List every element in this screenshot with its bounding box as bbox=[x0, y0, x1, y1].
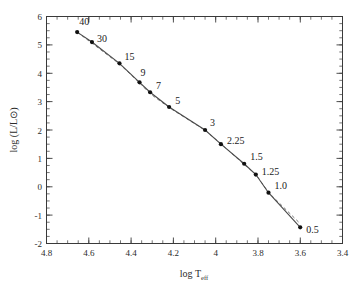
data-point bbox=[242, 162, 246, 166]
y-axis-label: log (L/L⊙) bbox=[8, 108, 20, 153]
data-point bbox=[254, 172, 258, 176]
data-point-label: 0.5 bbox=[306, 224, 319, 235]
x-tick-label: 4 bbox=[213, 248, 218, 258]
zams-solid-curve bbox=[77, 32, 300, 227]
x-axis-label-subscript: eff bbox=[201, 274, 209, 281]
y-tick-label: 2 bbox=[38, 126, 43, 136]
data-point-label: 1.0 bbox=[275, 180, 288, 191]
data-point bbox=[90, 40, 94, 44]
x-tick-label: 4.6 bbox=[83, 248, 95, 258]
chart-svg: 4.8 4.6 4.4 4.2 4 3.8 3.6 bbox=[0, 0, 361, 287]
data-point bbox=[298, 225, 302, 229]
y-tick-label: -2 bbox=[35, 239, 43, 249]
x-axis-minor-ticks bbox=[47, 17, 343, 244]
data-point bbox=[167, 105, 171, 109]
y-tick-label: -1 bbox=[35, 211, 43, 221]
x-tick-label: 4.8 bbox=[41, 248, 53, 258]
x-tick-label: 3.4 bbox=[337, 248, 349, 258]
x-tick-label: 3.6 bbox=[295, 248, 307, 258]
data-point-label: 15 bbox=[124, 51, 134, 62]
data-point-label: 2.25 bbox=[227, 135, 245, 146]
data-point-label: 30 bbox=[97, 33, 107, 44]
x-tick-label: 4.4 bbox=[125, 248, 137, 258]
data-point-label: 5 bbox=[175, 95, 180, 106]
x-tick-label: 4.2 bbox=[168, 248, 179, 258]
data-point bbox=[219, 142, 223, 146]
y-tick-label: 1 bbox=[38, 154, 43, 164]
y-tick-label: 5 bbox=[38, 40, 43, 50]
y-axis-minor-ticks bbox=[47, 17, 343, 244]
data-point-label: 3 bbox=[210, 117, 215, 128]
y-tick-label: 6 bbox=[38, 12, 43, 22]
x-axis-label: log Teff bbox=[180, 268, 209, 281]
y-tick-label: 0 bbox=[38, 182, 43, 192]
plot-frame bbox=[47, 17, 343, 244]
data-point bbox=[75, 30, 79, 34]
x-axis-label-main: log T bbox=[180, 268, 201, 279]
data-point bbox=[148, 90, 152, 94]
y-tick-label: 4 bbox=[38, 69, 43, 79]
x-axis-ticks: 4.8 4.6 4.4 4.2 4 3.8 3.6 bbox=[41, 17, 349, 259]
chart-figure: 4.8 4.6 4.4 4.2 4 3.8 3.6 bbox=[0, 0, 361, 287]
y-tick-label: 3 bbox=[38, 97, 43, 107]
data-point-label: 40 bbox=[79, 16, 89, 27]
dashed-comparison-curve bbox=[77, 32, 300, 224]
data-point-label: 1.5 bbox=[250, 151, 263, 162]
y-axis-ticks: 6 5 4 3 2 1 0 bbox=[35, 12, 343, 249]
data-point bbox=[137, 80, 141, 84]
data-point bbox=[266, 191, 270, 195]
data-point bbox=[203, 128, 207, 132]
data-point-markers bbox=[75, 30, 302, 229]
x-tick-label: 3.8 bbox=[252, 248, 264, 258]
data-point-label: 7 bbox=[156, 80, 161, 91]
data-point-label: 1.25 bbox=[262, 166, 280, 177]
data-point bbox=[117, 61, 121, 65]
data-point-label: 9 bbox=[141, 67, 146, 78]
